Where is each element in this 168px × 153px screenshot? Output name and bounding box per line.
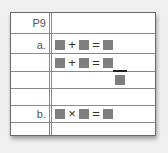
column-divider [51,13,52,135]
fraction-denominator-box[interactable] [115,75,125,85]
blank-box[interactable] [55,109,65,119]
row-line [11,53,155,54]
fraction-bar [113,70,127,72]
blank-box[interactable] [103,109,113,119]
column-divider [49,13,50,135]
row-label-b: b. [11,108,46,120]
equation-b: × = [55,107,113,121]
plus-operator: + [65,56,79,70]
equals-sign: = [89,38,103,52]
equation-a2: + = [55,56,113,70]
equals-sign: = [89,107,103,121]
row-line [11,122,155,123]
blank-box[interactable] [55,58,65,68]
blank-box[interactable] [79,109,89,119]
blank-box[interactable] [79,58,89,68]
plus-operator: + [65,38,79,52]
row-line [11,71,155,72]
equals-sign: = [89,56,103,70]
times-operator: × [65,107,79,121]
row-line [11,33,155,34]
fraction-numerator-box[interactable] [103,58,113,68]
row-line [11,105,155,106]
blank-box[interactable] [55,40,65,50]
equation-a1: + = [55,38,113,52]
blank-box[interactable] [103,40,113,50]
worksheet-card: P9 a. + = + = b. × = [10,12,156,136]
header-label: P9 [11,17,46,29]
row-label-a: a. [11,39,46,51]
row-line [11,88,155,89]
blank-box[interactable] [79,40,89,50]
